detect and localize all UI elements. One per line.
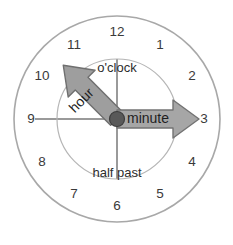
hour-number-11: 11: [67, 37, 81, 52]
hand-label-minute: minute: [127, 110, 169, 126]
hour-number-4: 4: [188, 154, 196, 169]
hour-number-12: 12: [109, 24, 124, 39]
hour-number-2: 2: [188, 68, 196, 83]
hour-number-6: 6: [113, 198, 121, 213]
hour-number-1: 1: [156, 37, 164, 52]
center-hub: [110, 112, 125, 127]
hour-number-10: 10: [34, 68, 49, 83]
clock-face-diagram: 121234567891011o'clockhalf pasthourminut…: [0, 0, 233, 245]
phrase-oclock: o'clock: [97, 60, 137, 75]
hour-number-5: 5: [156, 186, 164, 201]
hour-number-3: 3: [200, 111, 208, 126]
hour-number-9: 9: [27, 111, 35, 126]
hour-number-8: 8: [38, 154, 46, 169]
phrase-half-past: half past: [92, 165, 142, 180]
clock-svg-canvas: 121234567891011o'clockhalf pasthourminut…: [0, 0, 233, 245]
hour-number-7: 7: [70, 186, 78, 201]
